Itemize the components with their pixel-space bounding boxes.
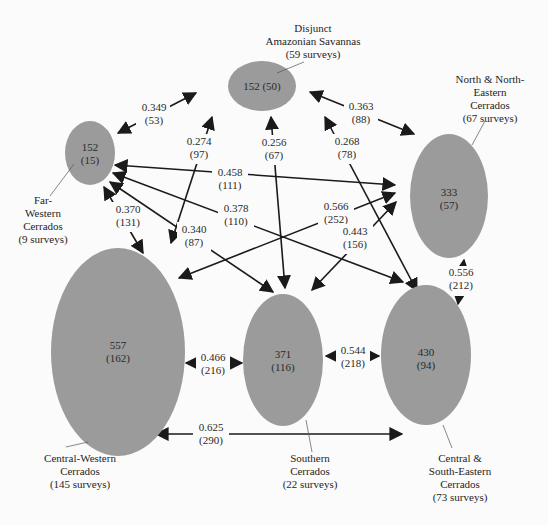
edge-count: (212)	[449, 279, 473, 292]
edge-disjunct-northne: 0.363 (88)	[310, 92, 414, 134]
edge-farwestern-centralwestern: 0.370 (131)	[104, 187, 146, 253]
edge-value: 0.544	[341, 344, 366, 356]
similarity-network-diagram: 0.349 (53) 0.363 (88) 0.274 (97) 0.256 (…	[0, 0, 548, 525]
edge-count: (156)	[343, 238, 367, 251]
svg-text:Cerrados: Cerrados	[60, 465, 100, 477]
node-southern-cerrados: 371 (116)	[243, 294, 323, 426]
edge-value: 0.256	[262, 136, 287, 148]
node-count: (94)	[417, 359, 436, 372]
node-value: 333	[441, 186, 458, 198]
edge-farwestern-disjunct: 0.349 (53)	[118, 93, 196, 133]
svg-text:Disjunct: Disjunct	[294, 22, 331, 34]
svg-text:(145 surveys): (145 surveys)	[50, 478, 111, 491]
svg-text:South-Eastern: South-Eastern	[429, 465, 492, 477]
node-value: 152 (50)	[243, 80, 281, 93]
node-count: (57)	[440, 199, 459, 212]
edge-count: (97)	[190, 148, 209, 161]
node-central-southeastern-cerrados: 430 (94)	[381, 285, 471, 425]
svg-text:(67 surveys): (67 surveys)	[463, 112, 518, 125]
edge-count: (78)	[338, 148, 357, 161]
edge-value: 0.378	[224, 202, 249, 214]
edge-value: 0.268	[335, 135, 360, 147]
label-central-southeastern: Central & South-Eastern Cerrados (73 sur…	[429, 425, 492, 504]
edge-count: (218)	[341, 357, 365, 370]
label-southern: Southern Cerrados (22 surveys)	[283, 420, 338, 491]
node-value: 557	[110, 339, 127, 351]
edge-value: 0.340	[182, 223, 207, 235]
svg-text:Western: Western	[25, 207, 61, 219]
svg-text:Cerrados: Cerrados	[440, 478, 480, 490]
edge-count: (216)	[201, 364, 225, 377]
edge-count: (290)	[199, 434, 223, 447]
node-north-northeastern-cerrados: 333 (57)	[410, 134, 488, 258]
svg-text:Central-Western: Central-Western	[44, 452, 116, 464]
label-far-western: Far- Western Cerrados (9 surveys)	[18, 164, 74, 246]
svg-text:Cerrados: Cerrados	[290, 465, 330, 477]
svg-text:(59 surveys): (59 surveys)	[286, 48, 341, 61]
svg-text:Cerrados: Cerrados	[470, 99, 510, 111]
edge-value: 0.349	[142, 101, 167, 113]
edge-count: (88)	[352, 113, 371, 126]
edge-value: 0.556	[449, 266, 474, 278]
edge-count: (131)	[116, 216, 140, 229]
node-count: (116)	[271, 361, 295, 374]
node-central-western-cerrados: 557 (162)	[51, 248, 185, 456]
node-value: 371	[275, 348, 292, 360]
svg-text:Eastern: Eastern	[474, 86, 507, 98]
edge-value: 0.370	[116, 203, 141, 215]
svg-text:(73 surveys): (73 surveys)	[433, 491, 488, 504]
edge-southern-centralse: 0.544 (218)	[326, 343, 379, 373]
edge-value: 0.466	[201, 351, 226, 363]
edge-count: (110)	[224, 215, 248, 228]
label-north-northeastern: North & North- Eastern Cerrados (67 surv…	[455, 73, 524, 145]
edge-count: (111)	[218, 179, 241, 192]
edge-southern-disjunct: 0.256 (67)	[257, 117, 291, 288]
node-value: 430	[418, 346, 435, 358]
svg-text:North & North-: North & North-	[455, 73, 524, 85]
node-count: (162)	[106, 352, 130, 365]
edge-count: (67)	[265, 149, 284, 162]
svg-text:Amazonian Savannas: Amazonian Savannas	[266, 35, 361, 47]
edge-value: 0.625	[199, 421, 224, 433]
edge-value: 0.458	[218, 166, 243, 178]
edge-value: 0.443	[343, 225, 368, 237]
edge-count: (87)	[185, 236, 204, 249]
edge-count: (53)	[145, 114, 164, 127]
svg-text:Cerrados: Cerrados	[23, 220, 63, 232]
svg-text:Far-: Far-	[34, 194, 52, 206]
svg-text:Central &: Central &	[438, 452, 482, 464]
node-disjunct-amazonian-savannas: 152 (50)	[228, 61, 296, 111]
svg-text:Southern: Southern	[290, 452, 330, 464]
node-count: (15)	[81, 154, 100, 167]
node-value: 152	[82, 141, 99, 153]
svg-text:(22 surveys): (22 surveys)	[283, 478, 338, 491]
edge-value: 0.566	[324, 200, 349, 212]
edge-value: 0.274	[187, 135, 212, 147]
edge-value: 0.363	[349, 100, 374, 112]
svg-text:(9 surveys): (9 surveys)	[18, 233, 68, 246]
node-far-western-cerrados: 152 (15)	[65, 121, 115, 185]
edge-centralwestern-southern: 0.466 (216)	[186, 350, 242, 380]
